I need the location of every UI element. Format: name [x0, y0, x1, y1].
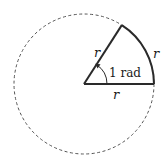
- label-angle: 1 rad: [109, 67, 141, 79]
- radian-diagram: [0, 0, 165, 163]
- label-radius-bottom: r: [113, 88, 119, 101]
- label-radius-top: r: [94, 46, 100, 59]
- label-arc: r: [153, 47, 159, 60]
